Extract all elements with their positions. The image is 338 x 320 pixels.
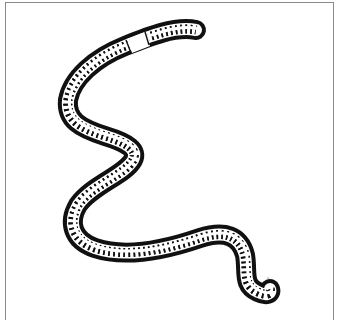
- speck-mark: [267, 277, 269, 279]
